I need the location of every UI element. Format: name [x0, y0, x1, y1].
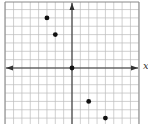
x-axis-label: x — [143, 60, 148, 71]
data-point — [45, 16, 50, 21]
data-point — [53, 32, 58, 37]
axes — [6, 3, 138, 124]
data-point — [70, 66, 75, 71]
y-arrow-icon — [70, 3, 75, 10]
x-arrow-left-icon — [6, 66, 13, 71]
data-point — [103, 116, 108, 121]
data-point — [86, 99, 91, 104]
coordinate-grid — [0, 0, 148, 124]
x-arrow-right-icon — [131, 66, 138, 71]
